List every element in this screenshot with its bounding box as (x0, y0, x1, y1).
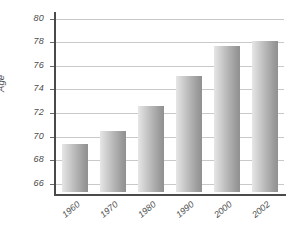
y-axis-tick-label: 74 (16, 83, 44, 93)
bar (100, 131, 126, 192)
gridline (56, 19, 284, 20)
y-axis-title: Age (0, 75, 6, 92)
y-axis-tick-label: 72 (16, 107, 44, 117)
bar (252, 41, 278, 192)
bar (176, 76, 202, 192)
x-axis-tick-label: 1980 (136, 199, 158, 220)
x-axis-tick-label: 1990 (174, 199, 196, 220)
x-axis-tick-label: 2000 (212, 199, 234, 220)
x-axis-tick-label: 1960 (60, 199, 82, 220)
plot-area (56, 14, 284, 192)
y-axis-tick-label: 68 (16, 154, 44, 164)
y-axis-tick-label: 70 (16, 131, 44, 141)
bar (138, 106, 164, 192)
y-axis-tick-label: 78 (16, 36, 44, 46)
y-axis-tick-label: 66 (16, 178, 44, 188)
y-axis-tick-label: 76 (16, 60, 44, 70)
gridline (56, 89, 284, 90)
gridline (56, 66, 284, 67)
bar-chart: 6668707274767880 Age 1960197019801990200… (0, 0, 289, 243)
y-axis-tick-label: 80 (16, 13, 44, 23)
y-axis-line (54, 12, 56, 196)
bar (214, 46, 240, 192)
gridline (56, 113, 284, 114)
gridline (56, 184, 284, 185)
x-axis-tick-labels-group: 196019701980199020002002 (56, 200, 288, 242)
x-axis-tick-label: 1970 (98, 199, 120, 220)
bar (62, 144, 88, 192)
x-axis-tick-label: 2002 (250, 199, 272, 220)
gridline (56, 42, 284, 43)
gridline (56, 137, 284, 138)
gridline (56, 160, 284, 161)
x-axis-line (54, 194, 286, 196)
